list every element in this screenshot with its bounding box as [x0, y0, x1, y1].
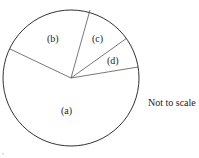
slice-label-c: (c)	[92, 33, 103, 45]
divider-d-a	[71, 67, 138, 78]
stray-mark: ,	[2, 148, 4, 156]
slice-label-b: (b)	[47, 33, 59, 45]
divider-b-c	[71, 10, 90, 78]
pie-chart: (b) (c) (d) (a)	[0, 0, 199, 158]
slice-label-a: (a)	[61, 105, 72, 117]
slice-label-d: (d)	[107, 55, 119, 67]
not-to-scale-note: Not to scale	[148, 97, 196, 108]
divider-a-b	[10, 49, 71, 78]
